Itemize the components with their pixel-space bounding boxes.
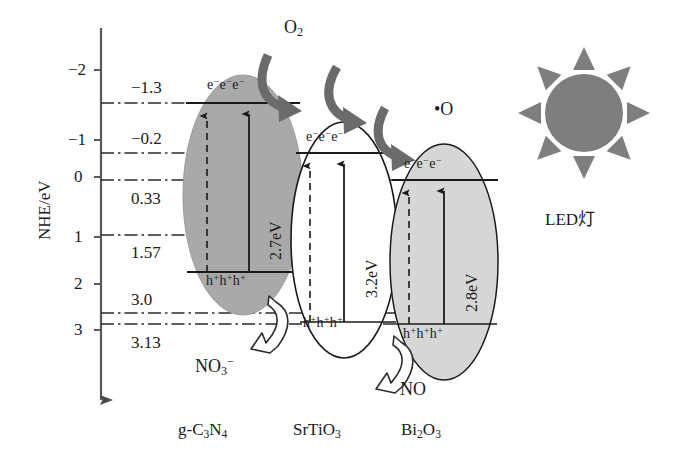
sun-ray bbox=[573, 156, 595, 179]
axis-tick-label-5: 3 bbox=[74, 321, 83, 338]
srtio3-hole-label: h+h+h+ bbox=[303, 316, 343, 330]
level-label-m1_3: −1.3 bbox=[131, 79, 162, 96]
sun-ray bbox=[573, 47, 595, 70]
sun-ray bbox=[518, 102, 541, 124]
axis-tick-label-2: 0 bbox=[74, 168, 83, 185]
sun-icon bbox=[518, 47, 650, 179]
species-label-o-radical: •O bbox=[434, 100, 453, 118]
material-name-srtio3: SrTiO3 bbox=[293, 421, 341, 441]
bi2o3-bandgap-label: 2.8eV bbox=[464, 273, 480, 312]
nhe-axis bbox=[94, 28, 101, 400]
axis-tick-label-4: 2 bbox=[74, 275, 83, 292]
level-label-1_57: 1.57 bbox=[131, 244, 161, 261]
bi2o3-hole-label: h+h+h+ bbox=[403, 327, 443, 341]
led-lamp-label: LED灯 bbox=[545, 211, 595, 228]
bi2o3-electron-label: e−e−e− bbox=[404, 157, 442, 171]
srtio3-electron-label: e−e−e− bbox=[306, 130, 344, 144]
level-label-3_0: 3.0 bbox=[131, 291, 152, 308]
gcn-bandgap-label: 2.7eV bbox=[268, 221, 284, 260]
srtio3-bandgap-label: 3.2eV bbox=[364, 259, 380, 298]
sun-ray bbox=[627, 102, 650, 124]
species-label-o2: O2 bbox=[284, 18, 303, 39]
axis-tick-label-3: 1 bbox=[74, 228, 83, 245]
sun-disc bbox=[545, 74, 623, 152]
diagram-canvas: NHE/eV −2 −1 0 1 2 3 −1.3 −0.2 0.33 1.57… bbox=[0, 0, 688, 475]
transfer-arrowhead-1 bbox=[278, 95, 302, 122]
gcn-electron-label: e−e−e− bbox=[207, 78, 245, 92]
species-label-no: NO bbox=[400, 380, 426, 398]
axis-title: NHE/eV bbox=[36, 181, 53, 240]
material-bi2o3-group[interactable] bbox=[390, 144, 498, 380]
material-name-gcn: g-C3N4 bbox=[178, 421, 227, 441]
level-label-0_33: 0.33 bbox=[131, 190, 161, 207]
diagram-vector-layer bbox=[0, 0, 688, 475]
gcn-hole-label: h+h+h+ bbox=[206, 274, 246, 288]
material-name-bi2o3: Bi2O3 bbox=[401, 421, 441, 441]
species-label-no3: NO3− bbox=[195, 356, 234, 377]
level-label-3_13: 3.13 bbox=[131, 334, 161, 351]
axis-tick-label-0: −2 bbox=[68, 61, 86, 78]
axis-tick-label-1: −1 bbox=[68, 131, 86, 148]
level-label-m0_2: −0.2 bbox=[131, 130, 162, 147]
